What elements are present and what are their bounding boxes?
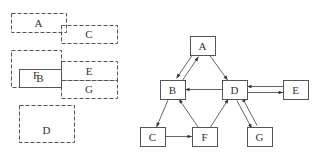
edge-g-to-d (242, 98, 257, 126)
block-g: G (62, 81, 118, 99)
block-d: D (20, 106, 75, 143)
graph-node-a: A (191, 37, 216, 56)
block-b: B (20, 70, 62, 88)
graph-nodes: ABDECFG (141, 37, 309, 147)
diagram-canvas: ACFBEGD ABDECFG (0, 0, 316, 156)
edge-d-to-g (237, 100, 252, 128)
block-label: A (35, 17, 43, 29)
graph-node-g: G (248, 128, 273, 147)
graph-node-d: D (223, 81, 248, 100)
graph-node-c: C (141, 128, 166, 147)
graph-node-b: B (161, 81, 186, 100)
node-label: F (201, 131, 207, 143)
edge-b-to-a (181, 57, 198, 82)
block-c: C (62, 26, 118, 44)
node-label: A (199, 40, 207, 52)
edge-a-to-b (176, 53, 193, 78)
left-block-layout: ACFBEGD (12, 14, 118, 143)
edge-f-to-b (179, 99, 198, 127)
block-e: E (62, 62, 118, 81)
edge-a-to-d (209, 55, 227, 80)
node-label: B (169, 84, 176, 96)
block-label: G (85, 83, 93, 95)
node-label: D (231, 84, 239, 96)
block-label: C (85, 28, 92, 40)
node-label: E (292, 84, 299, 96)
edge-f-to-d (211, 99, 229, 127)
block-label: D (43, 124, 51, 136)
edge-b-to-c (157, 99, 169, 127)
node-label: C (149, 131, 156, 143)
block-label: B (36, 72, 43, 84)
node-label: G (256, 131, 264, 143)
block-label: E (86, 65, 93, 77)
graph-node-f: F (193, 128, 218, 147)
graph-node-e: E (284, 81, 309, 100)
block-a: A (12, 14, 67, 33)
